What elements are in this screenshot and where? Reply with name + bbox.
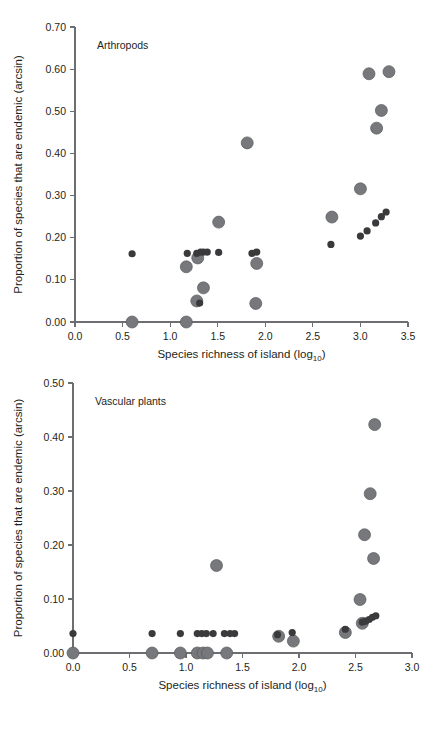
- data-point-small: [177, 630, 184, 637]
- data-point-large: [326, 211, 338, 223]
- x-tick-label: 2.0: [292, 661, 307, 673]
- y-tick-label: 0.30: [44, 485, 65, 497]
- data-point-large: [354, 594, 366, 606]
- data-point-large: [197, 282, 209, 294]
- data-point-small: [204, 248, 211, 255]
- data-point-large: [126, 316, 138, 328]
- data-point-small: [363, 227, 370, 234]
- data-point-small: [289, 629, 296, 636]
- x-tick-label: 3.0: [405, 661, 420, 673]
- data-point-small: [274, 631, 281, 638]
- data-point-large: [359, 529, 371, 541]
- data-point-large: [213, 216, 225, 228]
- panel-vascular-plants: 0.000.100.200.300.400.500.00.51.01.52.02…: [0, 365, 441, 730]
- x-axis-title: Species richness of island (log10): [158, 679, 326, 694]
- data-point-large: [383, 66, 395, 78]
- data-point-small: [357, 232, 364, 239]
- data-point-small: [196, 299, 203, 306]
- x-tick-label: 0.0: [68, 330, 83, 342]
- data-point-large: [221, 647, 233, 659]
- data-point-large: [201, 647, 213, 659]
- y-tick-label: 0.50: [46, 105, 67, 117]
- data-point-small: [253, 248, 260, 255]
- data-point-large: [364, 488, 376, 500]
- x-axis-title: Species richness of island (log10): [157, 348, 325, 363]
- data-point-large: [211, 560, 223, 572]
- y-axis-title: Proportion of species that are endemic (…: [12, 399, 24, 638]
- data-point-small: [372, 612, 379, 619]
- x-tick-label: 3.0: [353, 330, 368, 342]
- data-point-large: [250, 297, 262, 309]
- data-point-small: [210, 630, 217, 637]
- data-point-small: [215, 249, 222, 256]
- data-point-large: [251, 257, 263, 269]
- data-point-large: [368, 553, 380, 565]
- data-point-large: [241, 137, 253, 149]
- data-point-small: [69, 630, 76, 637]
- scatter-plot-arthropods: 0.000.100.200.300.400.500.600.700.00.51.…: [0, 0, 441, 365]
- x-tick-label: 1.0: [179, 661, 194, 673]
- x-tick-label: 2.5: [306, 330, 321, 342]
- data-point-large: [287, 635, 299, 647]
- x-tick-label: 2.0: [258, 330, 273, 342]
- data-point-large: [180, 316, 192, 328]
- y-tick-label: 0.70: [46, 21, 67, 33]
- data-point-small: [184, 250, 191, 257]
- data-point-large: [174, 647, 186, 659]
- y-tick-label: 0.40: [46, 147, 67, 159]
- data-point-small: [327, 241, 334, 248]
- x-tick-label: 2.5: [348, 661, 363, 673]
- x-tick-label: 0.0: [66, 661, 81, 673]
- x-tick-label: 0.5: [122, 661, 137, 673]
- panel-label: Vascular plants: [95, 395, 166, 407]
- data-point-large: [354, 183, 366, 195]
- y-tick-label: 0.00: [46, 316, 67, 328]
- data-point-small: [342, 626, 349, 633]
- scatter-plot-vascular-plants: 0.000.100.200.300.400.500.00.51.01.52.02…: [0, 365, 441, 730]
- data-point-large: [180, 261, 192, 273]
- data-point-large: [369, 419, 381, 431]
- x-tick-label: 1.5: [210, 330, 225, 342]
- data-point-large: [371, 122, 383, 134]
- data-point-small: [383, 208, 390, 215]
- panel-label: Arthropods: [97, 39, 148, 51]
- x-tick-label: 3.5: [401, 330, 416, 342]
- data-point-small: [149, 630, 156, 637]
- y-tick-label: 0.10: [44, 593, 65, 605]
- y-tick-label: 0.10: [46, 273, 67, 285]
- data-point-small: [128, 250, 135, 257]
- panel-arthropods: 0.000.100.200.300.400.500.600.700.00.51.…: [0, 0, 441, 365]
- y-axis-title: Proportion of species that are endemic (…: [12, 55, 24, 294]
- figure-endemism-scatterplots: 0.000.100.200.300.400.500.600.700.00.51.…: [0, 0, 441, 730]
- y-tick-label: 0.00: [44, 647, 65, 659]
- y-tick-label: 0.20: [46, 231, 67, 243]
- y-tick-label: 0.60: [46, 63, 67, 75]
- data-point-small: [231, 630, 238, 637]
- x-tick-label: 1.0: [163, 330, 178, 342]
- data-point-large: [67, 647, 79, 659]
- x-tick-label: 1.5: [235, 661, 250, 673]
- y-tick-label: 0.30: [46, 189, 67, 201]
- y-tick-label: 0.40: [44, 431, 65, 443]
- y-tick-label: 0.20: [44, 539, 65, 551]
- data-point-small: [372, 219, 379, 226]
- y-tick-label: 0.50: [44, 377, 65, 389]
- data-point-large: [146, 647, 158, 659]
- data-point-small: [203, 630, 210, 637]
- data-point-large: [363, 68, 375, 80]
- x-tick-label: 0.5: [115, 330, 130, 342]
- data-point-large: [375, 104, 387, 116]
